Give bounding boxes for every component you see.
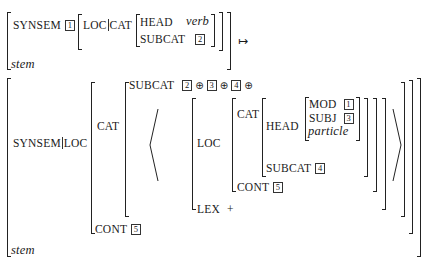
element-subcat-feature: SUBCAT 4 [266, 162, 326, 174]
element-loc-feature: LOC [197, 137, 221, 149]
output-loc-right-bracket [409, 80, 413, 234]
element-head-type: particle [308, 125, 348, 137]
element-right-bracket [382, 98, 386, 210]
tag-box: 1 [65, 20, 75, 31]
input-type-stem: stem [11, 58, 35, 70]
element-cont-feature: CONT 5 [237, 181, 284, 193]
tag-box: 2 [195, 34, 205, 45]
tag-box: 3 [207, 80, 217, 91]
input-loc-right-bracket [219, 12, 223, 51]
tag-box: 2 [182, 80, 192, 91]
element-mod-feature: MOD 1 [309, 98, 355, 110]
element-loc-right-bracket [373, 98, 377, 192]
input-loc-cat-path: LOCCAT [83, 19, 132, 31]
input-outer-right-bracket [227, 12, 231, 70]
tag-box: 4 [315, 163, 325, 174]
element-subj-feature: SUBJ 3 [309, 112, 355, 124]
element-lex-feature: LEX + [197, 203, 234, 215]
output-subcat-feature: SUBCAT 2⊕3⊕4⊕ [129, 79, 255, 92]
element-head-right-bracket [356, 97, 360, 141]
output-cat-left-bracket [125, 82, 129, 217]
output-cat-feature: CAT [97, 120, 119, 132]
output-type-stem: stem [11, 244, 35, 256]
append-operator: ⊕ [244, 80, 253, 91]
input-synsem-feature: SYNSEM 1 [13, 19, 76, 31]
tag-box: 5 [131, 224, 141, 235]
element-cat-right-bracket [364, 98, 368, 177]
path-separator [108, 19, 109, 31]
output-outer-right-bracket [417, 78, 421, 257]
element-left-bracket [192, 98, 196, 210]
element-loc-left-bracket [232, 98, 236, 192]
path-separator [62, 137, 63, 149]
append-operator: ⊕ [195, 80, 204, 91]
input-loc-left-bracket [78, 14, 82, 50]
append-operator: ⊕ [220, 80, 229, 91]
lexical-rule-avm: SYNSEM 1 LOCCAT HEAD verb SUBCAT 2 stem … [0, 0, 427, 261]
list-open-angle [148, 108, 160, 182]
tag-box: 3 [344, 113, 354, 124]
input-head-value: verb [186, 15, 209, 27]
output-cat-right-bracket [401, 82, 405, 217]
tag-box: 1 [344, 99, 354, 110]
input-subcat-feature: SUBCAT 2 [140, 33, 206, 45]
tag-box: 4 [231, 80, 241, 91]
output-loc-left-bracket [91, 82, 95, 234]
input-cat-right-bracket [211, 14, 215, 47]
output-cont-feature: CONT 5 [95, 223, 142, 235]
element-cat-feature: CAT [237, 108, 259, 120]
input-head-feature: HEAD [140, 16, 173, 28]
tag-box: 5 [273, 182, 283, 193]
element-head-feature: HEAD [266, 120, 299, 132]
output-outer-left-bracket [7, 78, 11, 257]
maps-to-arrow: ↦ [238, 35, 248, 47]
output-synsem-loc-path: SYNSEMLOC [13, 137, 87, 149]
